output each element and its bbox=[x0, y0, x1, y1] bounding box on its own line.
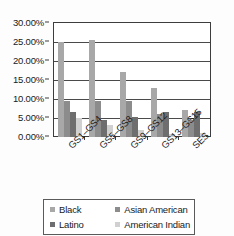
legend-label: Latino bbox=[59, 219, 84, 230]
legend-item: Latino bbox=[50, 219, 113, 230]
legend-swatch-icon bbox=[115, 207, 120, 212]
x-axis-label-slot: GS5–GS8 bbox=[85, 137, 116, 187]
legend-label: Asian American bbox=[124, 204, 187, 215]
y-axis-tick-mark bbox=[45, 98, 49, 99]
x-axis-label-slot: SES bbox=[179, 137, 210, 187]
y-axis-tick-mark bbox=[45, 136, 49, 137]
legend-item: Asian American bbox=[115, 204, 190, 215]
legend-swatch-icon bbox=[50, 222, 55, 227]
x-axis-label-slot: GS9–GS12 bbox=[116, 137, 147, 187]
legend-swatch-icon bbox=[50, 207, 55, 212]
x-axis: GS1–GS4GS5–GS8GS9–GS12GS13–GS15SES bbox=[54, 137, 210, 187]
y-axis-tick-label: 30.00% bbox=[13, 17, 44, 28]
y-axis: 30.00%25.00%20.00%15.00%10.00%5.00%0.00% bbox=[0, 22, 49, 137]
legend-swatch-icon bbox=[115, 222, 120, 227]
y-axis-tick-label: 15.00% bbox=[13, 74, 44, 85]
chart-legend: BlackAsian AmericanLatinoAmerican Indian bbox=[43, 199, 195, 235]
x-axis-label-slot: GS13–GS15 bbox=[148, 137, 179, 187]
y-axis-tick-mark bbox=[45, 60, 49, 61]
y-axis-tick-label: 10.00% bbox=[13, 93, 44, 104]
y-axis-tick-mark bbox=[45, 79, 49, 80]
legend-item: Black bbox=[50, 204, 113, 215]
y-axis-tick-label: 25.00% bbox=[13, 36, 44, 47]
y-axis-tick-mark bbox=[45, 117, 49, 118]
y-axis-tick-label: 20.00% bbox=[13, 55, 44, 66]
bar-chart: 30.00%25.00%20.00%15.00%10.00%5.00%0.00%… bbox=[0, 0, 234, 236]
y-axis-tick-mark bbox=[45, 41, 49, 42]
legend-item: American Indian bbox=[115, 219, 190, 230]
x-axis-label-slot: GS1–GS4 bbox=[54, 137, 85, 187]
bar-group bbox=[54, 23, 85, 137]
legend-label: American Indian bbox=[124, 219, 190, 230]
legend-label: Black bbox=[59, 204, 81, 215]
y-axis-tick-label: 0.00% bbox=[18, 131, 44, 142]
y-axis-tick-label: 5.00% bbox=[18, 112, 44, 123]
y-axis-tick-mark bbox=[45, 22, 49, 23]
